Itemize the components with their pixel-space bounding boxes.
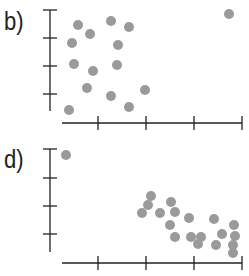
data-point [184, 213, 194, 223]
data-point [64, 105, 74, 115]
data-point [143, 200, 153, 210]
data-point [106, 16, 116, 26]
data-point [85, 29, 95, 39]
data-point [67, 38, 77, 48]
data-point [73, 20, 83, 30]
data-point [112, 60, 122, 70]
data-point [88, 66, 98, 76]
data-point [165, 220, 175, 230]
data-point [106, 91, 116, 101]
data-point [113, 40, 123, 50]
data-point [196, 232, 206, 242]
data-point [229, 220, 239, 230]
data-point [69, 59, 79, 69]
data-point [217, 229, 227, 239]
scatter-plots-canvas [0, 0, 249, 276]
data-point [61, 150, 71, 160]
data-point [82, 83, 92, 93]
data-point [170, 232, 180, 242]
data-point [228, 248, 238, 258]
data-point [170, 207, 180, 217]
data-point [209, 214, 219, 224]
data-point [137, 208, 147, 218]
data-point [140, 85, 150, 95]
data-point [230, 231, 240, 241]
data-point [166, 197, 176, 207]
data-point [124, 102, 134, 112]
data-point [224, 9, 234, 19]
data-point [155, 208, 165, 218]
data-point [124, 22, 134, 32]
data-point [211, 240, 221, 250]
data-point [146, 191, 156, 201]
